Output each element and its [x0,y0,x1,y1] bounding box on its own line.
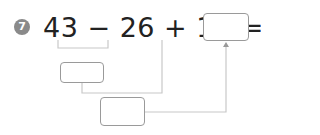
arrow-up-icon [223,42,229,47]
step1-box[interactable] [60,62,104,83]
step2-box[interactable] [100,97,145,126]
bracket-line [58,40,108,48]
answer-box[interactable] [203,13,249,41]
step2-connector [145,46,226,112]
